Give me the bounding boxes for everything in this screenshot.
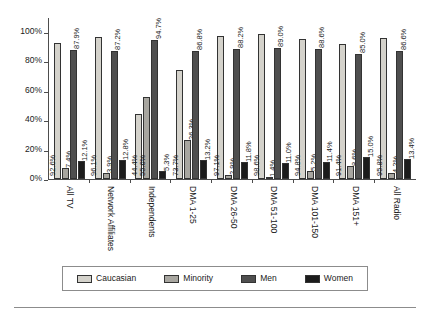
bar-value-label: 89.0% — [277, 26, 285, 47]
y-axis-tick-label: 40% — [25, 115, 42, 124]
bar-value-label: 55.6% — [139, 155, 147, 176]
bar-groups: 92.6%7.4%87.9%12.1%96.1%3.9%87.2%12.8%44… — [49, 18, 416, 179]
bar[interactable]: 94.8% — [299, 39, 306, 179]
bar[interactable]: 2.9% — [225, 175, 232, 179]
bar[interactable]: 91.4% — [339, 44, 346, 179]
bar-set: 44.4%55.6%94.7%5.3% — [131, 18, 172, 179]
x-axis-category-label: Independents — [146, 186, 155, 238]
bar[interactable]: 89.0% — [274, 48, 281, 179]
legend-item[interactable]: Men — [241, 274, 277, 283]
bar-value-label: 86.6% — [400, 29, 408, 50]
bar[interactable]: 8.6% — [347, 166, 354, 179]
legend-item[interactable]: Caucasian — [77, 274, 136, 283]
chart-legend: CaucasianMinorityMenWomen — [62, 266, 368, 291]
bar-value-label: 15.0% — [367, 136, 375, 157]
y-axis-tick-mark — [44, 151, 48, 152]
y-axis-tick-label: 0% — [30, 174, 42, 183]
bar-value-label: 91.4% — [335, 155, 343, 176]
bar-value-label: 13.2% — [204, 138, 212, 159]
bar[interactable]: 88.2% — [233, 49, 240, 179]
x-axis-tick-mark — [170, 179, 171, 183]
bar[interactable]: 85.0% — [355, 54, 362, 179]
bar-value-label: 98.6% — [253, 155, 261, 176]
bar[interactable]: 12.1% — [78, 161, 85, 179]
x-axis-tick-mark — [130, 179, 131, 183]
x-axis-category-label: DMA 26-50 — [228, 186, 237, 229]
legend-item[interactable]: Minority — [164, 274, 213, 283]
x-axis-category-cell: DMA 101-150 — [294, 184, 335, 246]
bar[interactable]: 5.2% — [307, 171, 314, 179]
bar-set: 95.8%4.2%86.6%13.4% — [375, 18, 416, 179]
bar[interactable]: 55.6% — [143, 97, 150, 179]
bar-value-label: 73.7% — [172, 155, 180, 176]
legend-swatch — [241, 275, 256, 283]
bar[interactable]: 88.6% — [315, 49, 322, 179]
x-axis-category-cell: All TV — [49, 184, 90, 246]
bar[interactable]: 94.7% — [151, 40, 158, 179]
x-axis-category-cell: All Radio — [375, 184, 416, 246]
legend-item[interactable]: Women — [305, 274, 353, 283]
bar[interactable]: 73.7% — [176, 70, 183, 179]
bar-set: 94.8%5.2%88.6%11.4% — [294, 18, 335, 179]
bar-value-label: 5.3% — [163, 154, 171, 171]
bar[interactable]: 97.1% — [217, 36, 224, 179]
bar[interactable]: 86.8% — [192, 51, 199, 179]
legend-label: Caucasian — [96, 274, 136, 283]
bar-value-label: 85.0% — [359, 32, 367, 53]
x-axis-tick-mark — [293, 179, 294, 183]
bar[interactable]: 26.3% — [184, 140, 191, 179]
bar-value-label: 12.8% — [122, 139, 130, 160]
footer-divider — [14, 307, 416, 308]
bar-group: 96.1%3.9%87.2%12.8% — [90, 18, 131, 179]
x-axis-line — [48, 179, 416, 180]
legend-swatch — [77, 275, 92, 283]
bar[interactable]: 7.4% — [62, 168, 69, 179]
bar-value-label: 94.8% — [294, 155, 302, 176]
x-axis-category-cell: DMA 26-50 — [212, 184, 253, 246]
bar[interactable]: 87.2% — [111, 51, 118, 179]
bar[interactable]: 1.4% — [266, 177, 273, 179]
bar[interactable]: 13.2% — [200, 160, 207, 179]
bar[interactable]: 11.8% — [241, 162, 248, 179]
x-axis-category-cell: Network Affiliates — [90, 184, 131, 246]
x-axis-category-cell: DMA 1-25 — [171, 184, 212, 246]
bar[interactable]: 12.8% — [119, 160, 126, 179]
x-axis-category-label: DMA 101-150 — [310, 186, 319, 238]
x-axis-tick-mark — [374, 179, 375, 183]
bar-value-label: 13.4% — [408, 138, 416, 159]
bar-group: 94.8%5.2%88.6%11.4% — [294, 18, 335, 179]
bar-set: 97.1%2.9%88.2%11.8% — [212, 18, 253, 179]
y-axis-tick-mark — [44, 33, 48, 34]
bar-value-label: 96.1% — [90, 155, 98, 176]
bar-value-label: 87.2% — [114, 28, 122, 49]
bar[interactable]: 11.4% — [323, 162, 330, 179]
x-axis-category-labels: All TVNetwork AffiliatesIndependentsDMA … — [49, 184, 416, 246]
y-axis-tick-mark — [44, 92, 48, 93]
bar[interactable]: 96.1% — [95, 37, 102, 179]
bar[interactable]: 3.9% — [103, 173, 110, 179]
bar-group: 97.1%2.9%88.2%11.8% — [212, 18, 253, 179]
legend-label: Minority — [183, 274, 213, 283]
bar-value-label: 88.6% — [318, 26, 326, 47]
bar[interactable]: 86.6% — [396, 51, 403, 179]
bar[interactable]: 98.6% — [258, 34, 265, 179]
bar[interactable]: 95.8% — [380, 38, 387, 179]
bar[interactable]: 92.6% — [54, 43, 61, 179]
bar-value-label: 87.9% — [73, 27, 81, 48]
bar[interactable]: 4.2% — [388, 173, 395, 179]
x-axis-tick-mark — [89, 179, 90, 183]
bar-group: 98.6%1.4%89.0%11.0% — [253, 18, 294, 179]
bar-value-label: 88.2% — [237, 27, 245, 48]
bar-set: 98.6%1.4%89.0%11.0% — [253, 18, 294, 179]
bar[interactable]: 13.4% — [404, 159, 411, 179]
bar-group: 95.8%4.2%86.6%13.4% — [375, 18, 416, 179]
bar[interactable]: 5.3% — [159, 171, 166, 179]
bar[interactable]: 11.0% — [282, 163, 289, 179]
bar-value-label: 86.8% — [196, 29, 204, 50]
bar[interactable]: 15.0% — [363, 157, 370, 179]
y-axis-tick-label: 60% — [25, 86, 42, 95]
bar[interactable]: 87.9% — [70, 50, 77, 179]
bar-set: 92.6%7.4%87.9%12.1% — [49, 18, 90, 179]
plot-area: 0%20%40%60%80%100% 92.6%7.4%87.9%12.1%96… — [48, 18, 416, 180]
legend-swatch — [305, 275, 320, 283]
